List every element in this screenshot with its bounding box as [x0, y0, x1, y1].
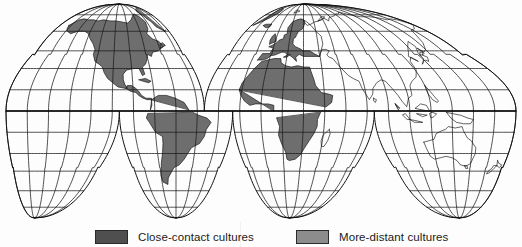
figure-world-map: Close-contact cultures More-distant cult… — [0, 0, 522, 247]
more-distant-swatch — [296, 230, 329, 244]
legend: Close-contact cultures More-distant cult… — [0, 226, 522, 247]
legend-label-more-distant: More-distant cultures — [339, 231, 448, 243]
legend-item-close-contact[interactable]: Close-contact cultures — [95, 230, 254, 244]
legend-label-close-contact: Close-contact cultures — [138, 231, 254, 243]
map-canvas — [0, 0, 522, 222]
legend-item-more-distant[interactable]: More-distant cultures — [296, 230, 448, 244]
close-contact-swatch — [95, 230, 128, 244]
goode-homolosine-map — [0, 0, 522, 222]
